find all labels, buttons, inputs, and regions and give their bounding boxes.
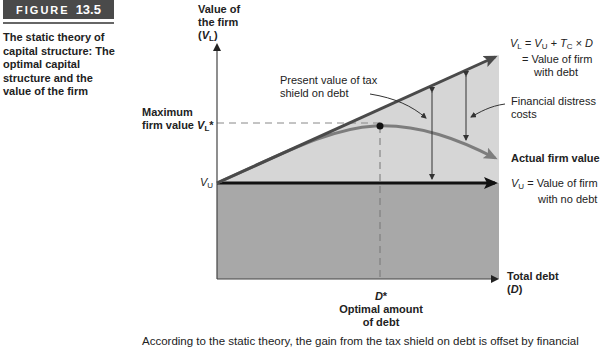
optimal-debt-label: D* Optimal amount of debt xyxy=(339,290,423,329)
vu-axis-label: VU xyxy=(200,176,213,192)
y-axis-label-var: (VL) xyxy=(198,29,240,45)
distress-label: Financial distress costs xyxy=(511,95,596,121)
vu-desc-line1: VU = Value of firm xyxy=(511,177,598,193)
vl-times: × D xyxy=(573,37,593,49)
tax-shield-line2: shield on debt xyxy=(280,87,377,100)
vl-rhs: = V xyxy=(522,37,542,49)
max-value-line1: Maximum xyxy=(142,106,214,119)
optimal-line1: Optimal amount xyxy=(339,303,423,316)
vl-equation: VL = VU + TC × D xyxy=(510,37,593,53)
y-var: V xyxy=(202,29,209,41)
max-value-star: * xyxy=(209,119,213,131)
y-axis-label-line1: Value of xyxy=(198,3,240,16)
x-axis-var-line: (D) xyxy=(507,283,559,296)
tax-shield-label: Present value of tax shield on debt xyxy=(280,74,377,100)
vl-desc-line1: = Value of firm xyxy=(510,53,593,66)
vl-equation-label: VL = VU + TC × D = Value of firm with de… xyxy=(510,37,593,79)
vu-sub: U xyxy=(207,181,213,190)
dstar: D* xyxy=(339,290,423,303)
x-axis-line1: Total debt xyxy=(507,270,559,283)
y-axis-label: Value of the firm (VL) xyxy=(198,3,240,45)
max-value-label: Maximum firm value VL* xyxy=(142,106,214,135)
dstar-mark: * xyxy=(383,290,387,302)
dstar-var: D xyxy=(375,290,383,302)
y-var-sub: L xyxy=(209,34,214,43)
max-value-line2: firm value VL* xyxy=(142,119,214,135)
max-value-text: firm value xyxy=(142,119,197,131)
x-var: D xyxy=(511,283,519,295)
distress-line2: costs xyxy=(511,108,596,121)
distress-line1: Financial distress xyxy=(511,95,596,108)
vu-desc-eq: = Value of firm xyxy=(524,177,597,189)
vu-desc-line2: with no debt xyxy=(511,193,598,206)
vu-desc-label: VU = Value of firm with no debt xyxy=(511,177,598,206)
tax-shield-line1: Present value of tax xyxy=(280,74,377,87)
x-axis-label: Total debt (D) xyxy=(507,270,559,296)
y-axis-label-line2: the firm xyxy=(198,16,240,29)
vl-desc-line2: with debt xyxy=(510,66,593,79)
optimum-point xyxy=(377,123,384,130)
no-debt-region xyxy=(217,183,499,279)
vl-plus: + T xyxy=(547,37,566,49)
optimal-line2: of debt xyxy=(339,316,423,329)
actual-value-label: Actual firm value xyxy=(511,152,600,165)
figure-caption: According to the static theory, the gain… xyxy=(142,335,579,347)
